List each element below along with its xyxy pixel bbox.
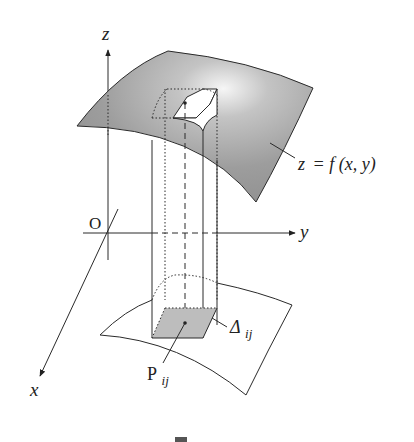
delta-leader [212, 318, 227, 327]
domain-region [100, 283, 292, 395]
surface-patch [77, 51, 313, 202]
delta-label: Δ ij [229, 317, 253, 341]
x-axis [40, 209, 118, 376]
point-label: P ij [147, 364, 169, 388]
surface-equation-lhs: z [297, 154, 305, 174]
point-subscript: ij [162, 373, 170, 388]
surface-equation-rhs: = f (x, y) [313, 154, 376, 175]
surface-equation: z = f (x, y) [297, 154, 376, 175]
double-integral-diagram: z y x O z = f (x, y) Δ ij P ij [0, 0, 414, 442]
delta-symbol: Δ [229, 317, 241, 337]
x-axis-label: x [29, 379, 39, 400]
delta-subscript: ij [245, 326, 253, 341]
point-symbol: P [147, 364, 157, 384]
z-axis-label: z [101, 23, 110, 44]
origin-label: O [89, 214, 101, 233]
caption-fragment [175, 437, 187, 442]
y-axis-label: y [298, 221, 309, 242]
